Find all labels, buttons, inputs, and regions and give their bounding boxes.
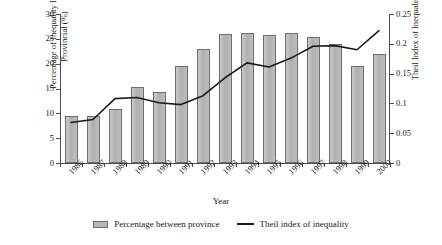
y-axis-right-tick — [390, 103, 394, 104]
legend-bar-swatch-icon — [93, 221, 108, 228]
y-axis-right-tick — [390, 133, 394, 134]
chart-figure: Percentage of Inequality Inter-Provincia… — [0, 0, 442, 245]
x-axis-tick — [60, 163, 61, 167]
y-axis-right-tick — [390, 44, 394, 45]
y-axis-left-tick-label: 5 — [50, 134, 54, 143]
y-axis-left-tick-label: 25 — [46, 34, 55, 43]
y-axis-right-tick-label: 0.1 — [396, 99, 407, 108]
plot-area — [60, 14, 390, 163]
y-axis-left-tick-label: 10 — [46, 109, 55, 118]
legend-line-swatch-icon — [237, 223, 254, 225]
line-series — [60, 14, 390, 163]
y-axis-right-tick-label: 0 — [396, 159, 400, 168]
y-axis-left-tick-label: 0 — [50, 159, 54, 168]
y-axis-right-title: Theil Index of Inequality — [410, 0, 421, 97]
y-axis-right-title-text: Theil Index of Inequality — [410, 0, 420, 80]
y-axis-right-tick-label: 0.2 — [396, 39, 407, 48]
y-axis-right-tick — [390, 14, 394, 15]
y-axis-right-tick-label: 0.05 — [396, 129, 411, 138]
theil-index-polyline — [71, 31, 379, 123]
y-axis-right-tick-label: 0.15 — [396, 69, 411, 78]
legend-line-label: Theil index of inequality — [260, 219, 349, 229]
legend-bar-label: Percentage between province — [114, 219, 219, 229]
y-axis-right-tick-label: 0.25 — [396, 10, 411, 19]
y-axis-left-tick-label: 15 — [46, 84, 55, 93]
x-axis-title: Year — [0, 196, 442, 206]
legend-item-bar: Percentage between province — [93, 219, 219, 229]
chart-legend: Percentage between province Theil index … — [0, 219, 442, 229]
y-axis-left-tick-label: 20 — [46, 59, 55, 68]
y-axis-right-tick — [390, 74, 394, 75]
y-axis-left-tick-label: 30 — [46, 10, 55, 19]
legend-item-line: Theil index of inequality — [237, 219, 349, 229]
